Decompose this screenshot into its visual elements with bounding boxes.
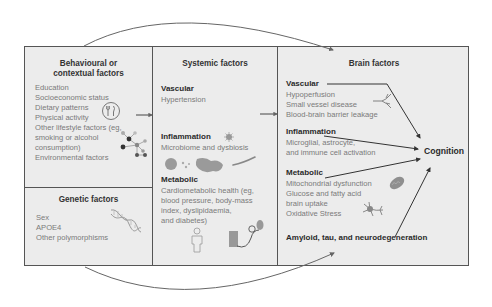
dna-icon (109, 206, 143, 236)
person-icon (189, 227, 205, 253)
systemic-inflammation-item: Microbiome and dysbiosis (161, 143, 248, 152)
blood-pressure-cuff-icon (227, 219, 267, 251)
behavioural-title-line2: contextual factors (25, 69, 152, 79)
genetic-item: APOE4 (36, 223, 61, 232)
systemic-vascular-item: Hypertension (161, 95, 206, 104)
brain-vascular-item: Small vessel disease (286, 100, 357, 109)
molecule-network-icon (115, 127, 151, 161)
genetic-item: Sex (36, 213, 49, 222)
systemic-metabolic-heading: Metabolic (161, 175, 198, 185)
brain-metabolic-heading: Metabolic (286, 168, 323, 178)
systemic-metabolic-item: Cardiometabolic health (eg, (161, 186, 254, 195)
brain-vascular-heading: Vascular (286, 79, 319, 89)
behavioural-item: Environmental factors (35, 153, 108, 162)
mitochondria-icon (388, 175, 406, 191)
brain-title: Brain factors (278, 59, 470, 69)
genetic-title: Genetic factors (25, 195, 152, 205)
blood-vessel-icon (372, 92, 394, 110)
behavioural-item: consumption) (35, 143, 81, 152)
brain-inflammation-heading: Inflammation (286, 127, 336, 137)
behavioural-item: Dietary patterns (35, 103, 89, 112)
neuron-icon (362, 201, 384, 219)
brain-vascular-item: Blood-brain barrier leakage (286, 110, 378, 119)
behavioural-item: smoking or alcohol (35, 133, 98, 142)
behavioural-item: Other lifestyle factors (eg, (35, 123, 122, 132)
brain-inflammation-item: and immune cell activation (286, 148, 375, 157)
behavioural-title: Behavioural or contextual factors (25, 59, 152, 79)
cognition-outcome: Cognition (424, 146, 464, 156)
behavioural-title-line1: Behavioural or (25, 59, 152, 69)
systemic-title: Systemic factors (153, 59, 277, 69)
brain-metabolic-item: brain uptake (286, 199, 328, 208)
genetic-item: Other polymorphisms (36, 233, 108, 242)
microbiome-illustration-icon (163, 153, 263, 175)
diagram-frame: Behavioural or contextual factors Educat… (24, 46, 469, 266)
brain-inflammation-item: Microglial, astrocyte, (286, 138, 355, 147)
brain-metabolic-item: Oxidative Stress (286, 209, 341, 218)
systemic-vascular-heading: Vascular (161, 84, 194, 94)
brain-vascular-item: Hypoperfusion (286, 90, 335, 99)
brain-metabolic-item: Mitochondrial dysfunction (286, 179, 372, 188)
systemic-inflammation-heading: Inflammation (161, 132, 211, 142)
brain-factors-panel: Brain factors Vascular Hypoperfusion Sma… (277, 47, 469, 266)
systemic-metabolic-item: and diabetes) (161, 216, 207, 225)
brain-metabolic-item: Glucose and fatty acid (286, 189, 361, 198)
behavioural-item: Education (35, 83, 69, 92)
microbe-icon (224, 132, 234, 142)
behavioural-factors-panel: Behavioural or contextual factors Educat… (25, 47, 152, 187)
behavioural-item: Physical activity (35, 113, 89, 122)
fork-knife-icon (101, 101, 121, 121)
systemic-metabolic-item: blood pressure, body-mass (161, 196, 253, 205)
brain-amyloid-heading: Amyloid, tau, and neurodegeneration (286, 233, 427, 243)
genetic-factors-panel: Genetic factors Sex APOE4 Other polymorp… (25, 187, 152, 266)
systemic-factors-panel: Systemic factors Vascular Hypertension I… (152, 47, 277, 266)
systemic-metabolic-item: index, dyslipidaemia, (161, 206, 232, 215)
behavioural-item: Socioeconomic status (35, 93, 109, 102)
